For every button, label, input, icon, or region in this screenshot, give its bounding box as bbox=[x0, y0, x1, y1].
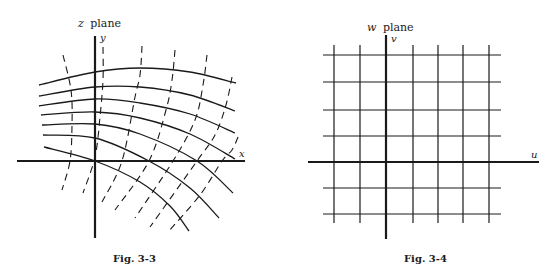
figure-z-plane: z plane y x Fig. 3-3 bbox=[17, 17, 245, 264]
plane-variable: w bbox=[367, 21, 377, 34]
figure-caption: Fig. 3-4 bbox=[404, 253, 447, 264]
plane-word: plane bbox=[383, 21, 414, 34]
figure-w-plane: w plane v u Fig. 3-4 bbox=[308, 21, 539, 264]
u-axis-label: u bbox=[531, 149, 537, 160]
dashed-curve bbox=[102, 46, 142, 202]
dashed-curve bbox=[150, 77, 232, 227]
plane-variable: z bbox=[77, 17, 84, 30]
figure-caption: Fig. 3-3 bbox=[113, 253, 156, 264]
solid-curve-family bbox=[39, 68, 236, 231]
y-axis-label: y bbox=[99, 32, 106, 43]
dashed-curve bbox=[115, 50, 175, 210]
plane-label: z plane bbox=[77, 17, 121, 30]
rectangular-grid bbox=[323, 45, 501, 223]
v-axis-label: v bbox=[391, 33, 397, 44]
solid-curve bbox=[39, 86, 235, 111]
dashed-curve bbox=[83, 47, 103, 193]
solid-curve bbox=[39, 68, 236, 85]
solid-curve bbox=[39, 99, 235, 133]
dashed-curve bbox=[62, 55, 72, 190]
x-axis-label: x bbox=[239, 148, 245, 159]
conformal-mapping-figures: z plane y x Fig. 3-3 w plane v u Fig. 3-… bbox=[0, 0, 552, 272]
solid-curve bbox=[42, 123, 233, 193]
solid-curve bbox=[44, 147, 189, 231]
plane-word: plane bbox=[90, 17, 121, 30]
